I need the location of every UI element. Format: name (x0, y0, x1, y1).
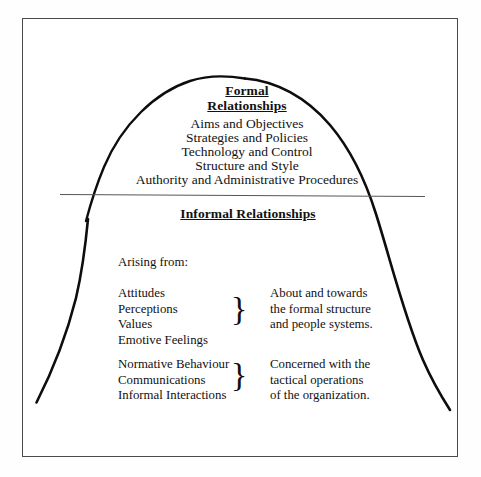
list-item: tactical operations (270, 373, 370, 389)
list-item: Perceptions (118, 302, 208, 318)
informal-heading: Informal Relationships (180, 206, 315, 222)
informal-group-1-right-list: About and towards the formal structure a… (270, 286, 373, 333)
informal-group-2-left-list: Normative Behaviour Communications Infor… (118, 357, 229, 404)
list-item: Normative Behaviour (118, 357, 229, 373)
list-item: Emotive Feelings (118, 333, 208, 349)
formal-heading-line1: Formal (225, 83, 268, 99)
list-item: and people systems. (270, 317, 373, 333)
list-item: Values (118, 317, 208, 333)
list-item: Communications (118, 373, 229, 389)
formal-heading-line2: Relationships (207, 98, 286, 114)
informal-group-1-brace: } (231, 292, 247, 326)
arising-from-label: Arising from: (118, 256, 188, 269)
list-item: the formal structure (270, 302, 373, 318)
list-item: of the organization. (270, 388, 370, 404)
list-item: About and towards (270, 286, 373, 302)
list-item: Attitudes (118, 286, 208, 302)
list-item: Concerned with the (270, 357, 370, 373)
informal-group-1-left-list: Attitudes Perceptions Values Emotive Fee… (118, 286, 208, 348)
diagram-canvas: Formal Relationships Aims and Objectives… (0, 0, 481, 477)
informal-group-2-brace: } (231, 358, 247, 392)
informal-group-2-right-list: Concerned with the tactical operations o… (270, 357, 370, 404)
list-item: Informal Interactions (118, 388, 229, 404)
formal-item-authority: Authority and Administrative Procedures (136, 172, 358, 188)
